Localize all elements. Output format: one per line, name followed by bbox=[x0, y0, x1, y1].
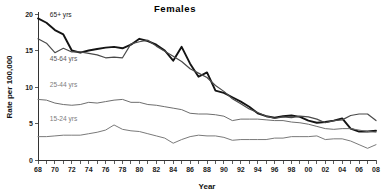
x-tick-label: 80 bbox=[136, 166, 144, 173]
x-tick-label: 68 bbox=[34, 166, 42, 173]
x-tick-label: 02 bbox=[321, 166, 329, 173]
label-65plus: 65+ yrs bbox=[50, 11, 73, 19]
label-25-44: 25-44 yrs bbox=[50, 81, 78, 89]
x-tick-label: 76 bbox=[102, 166, 110, 173]
label-45-64: 45-64 yrs bbox=[50, 55, 78, 63]
x-tick-label: 72 bbox=[68, 166, 76, 173]
y-tick-label: 20 bbox=[25, 11, 33, 18]
x-tick-label: 94 bbox=[254, 166, 262, 173]
x-tick-label: 04 bbox=[338, 166, 346, 173]
x-tick-label: 88 bbox=[203, 166, 211, 173]
x-axis-title: Year bbox=[199, 182, 216, 191]
x-tick-label: 86 bbox=[186, 166, 194, 173]
line-chart: 0510152068707274767880828486889092949698… bbox=[0, 0, 382, 195]
x-tick-label: 96 bbox=[271, 166, 279, 173]
x-tick-label: 70 bbox=[51, 166, 59, 173]
y-tick-label: 15 bbox=[25, 47, 33, 54]
y-tick-label: 5 bbox=[29, 120, 33, 127]
x-tick-label: 84 bbox=[169, 166, 177, 173]
y-axis-title: Rate per 100,000 bbox=[5, 55, 14, 119]
y-tick-label: 0 bbox=[29, 157, 33, 164]
x-tick-label: 00 bbox=[305, 166, 313, 173]
series-line-65-yrs bbox=[38, 18, 376, 131]
x-tick-label: 90 bbox=[220, 166, 228, 173]
x-tick-label: 98 bbox=[288, 166, 296, 173]
x-tick-label: 78 bbox=[119, 166, 127, 173]
series-line-25-44-yrs bbox=[38, 99, 376, 132]
x-tick-label: 74 bbox=[85, 166, 93, 173]
y-tick-label: 10 bbox=[25, 84, 33, 91]
x-tick-label: 82 bbox=[152, 166, 160, 173]
x-tick-label: 06 bbox=[355, 166, 363, 173]
label-15-24: 15-24 yrs bbox=[50, 115, 78, 123]
chart-title: Females bbox=[154, 3, 196, 14]
x-tick-label: 08 bbox=[372, 166, 380, 173]
x-tick-label: 92 bbox=[237, 166, 245, 173]
chart-container: 0510152068707274767880828486889092949698… bbox=[0, 0, 382, 195]
